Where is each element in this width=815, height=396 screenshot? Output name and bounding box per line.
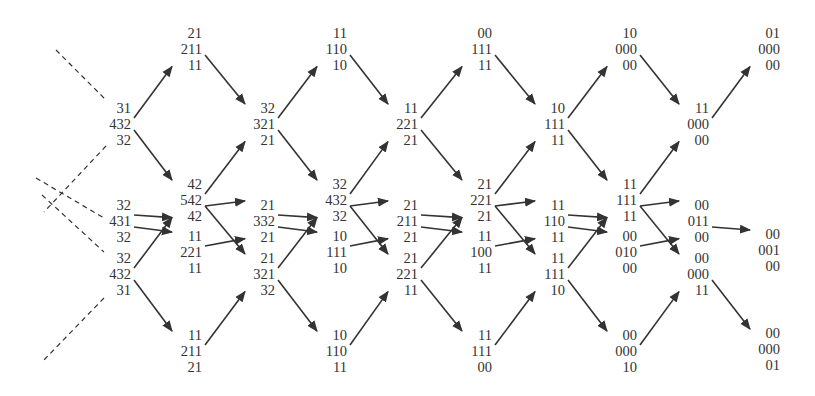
arrow-edges bbox=[134, 55, 750, 345]
transition-arrow bbox=[568, 67, 607, 118]
transition-arrow bbox=[278, 67, 317, 118]
node-line: 010 bbox=[615, 244, 637, 260]
node-line: 11 bbox=[180, 260, 202, 276]
node-line: 42 bbox=[180, 176, 202, 192]
node-line: 221 bbox=[470, 192, 492, 208]
transition-arrow bbox=[350, 206, 388, 254]
node-line: 110 bbox=[326, 41, 347, 57]
node-line: 31 bbox=[109, 282, 131, 298]
node-line: 000 bbox=[687, 266, 709, 282]
node-line: 211 bbox=[181, 343, 202, 359]
transition-arrow bbox=[640, 201, 679, 206]
node-line: 11 bbox=[544, 132, 565, 148]
node-line: 32 bbox=[325, 208, 347, 224]
node-line: 32 bbox=[109, 250, 131, 266]
transition-arrow bbox=[350, 142, 388, 194]
node-line: 00 bbox=[471, 359, 492, 375]
transition-arrow bbox=[568, 280, 607, 331]
node-line: 11 bbox=[544, 197, 565, 213]
node-line: 542 bbox=[180, 192, 202, 208]
transition-arrow bbox=[640, 292, 679, 345]
node-line: 332 bbox=[253, 213, 275, 229]
transition-arrow bbox=[350, 292, 388, 345]
state-node: 4254242 bbox=[180, 176, 202, 224]
node-line: 111 bbox=[471, 41, 492, 57]
transition-arrow bbox=[421, 227, 462, 232]
state-node: 2133221 bbox=[253, 197, 275, 245]
node-line: 011 bbox=[688, 213, 709, 229]
node-line: 00 bbox=[615, 57, 637, 73]
state-node: 2122111 bbox=[396, 250, 418, 298]
dashed-incoming-line bbox=[36, 178, 104, 218]
transition-arrow bbox=[205, 239, 245, 246]
transition-arrow bbox=[421, 67, 462, 118]
node-line: 000 bbox=[615, 343, 637, 359]
node-line: 10 bbox=[544, 282, 565, 298]
node-line: 321 bbox=[253, 266, 275, 282]
transition-arrow bbox=[495, 239, 535, 246]
node-line: 42 bbox=[180, 208, 202, 224]
node-line: 00 bbox=[758, 226, 780, 242]
transition-arrow bbox=[495, 292, 535, 345]
node-line: 01 bbox=[758, 357, 780, 373]
node-line: 10 bbox=[544, 100, 565, 116]
node-line: 111 bbox=[616, 192, 637, 208]
node-line: 111 bbox=[544, 266, 565, 282]
transition-arrow bbox=[421, 215, 462, 218]
node-line: 321 bbox=[253, 116, 275, 132]
transition-arrow bbox=[134, 218, 172, 268]
node-line: 11 bbox=[396, 100, 418, 116]
state-node: 3243232 bbox=[325, 176, 347, 224]
node-line: 00 bbox=[687, 250, 709, 266]
transition-arrow bbox=[640, 142, 679, 194]
transition-arrow bbox=[350, 239, 388, 246]
state-node: 1011110 bbox=[326, 228, 347, 276]
node-line: 111 bbox=[544, 116, 565, 132]
dashed-incoming-line bbox=[42, 298, 104, 362]
transition-arrow bbox=[712, 280, 750, 329]
node-line: 21 bbox=[253, 197, 275, 213]
node-line: 10 bbox=[615, 25, 637, 41]
node-line: 21 bbox=[181, 359, 202, 375]
transition-arrow bbox=[350, 201, 388, 206]
transition-arrow bbox=[712, 227, 750, 230]
state-node: 1111111 bbox=[616, 176, 637, 224]
transition-arrow bbox=[205, 201, 245, 206]
transition-arrow bbox=[495, 142, 535, 194]
dashed-incoming-line bbox=[42, 195, 104, 252]
transition-arrow bbox=[421, 280, 462, 331]
node-line: 221 bbox=[396, 116, 418, 132]
node-line: 21 bbox=[397, 197, 418, 213]
node-line: 11 bbox=[396, 282, 418, 298]
node-line: 110 bbox=[544, 213, 565, 229]
transition-arrow bbox=[568, 227, 607, 232]
transition-arrow bbox=[134, 215, 172, 218]
node-line: 31 bbox=[109, 100, 131, 116]
node-line: 11 bbox=[616, 176, 637, 192]
node-line: 11 bbox=[471, 57, 492, 73]
node-line: 100 bbox=[470, 244, 492, 260]
state-node: 2132132 bbox=[253, 250, 275, 298]
transition-arrow bbox=[495, 201, 535, 206]
node-line: 00 bbox=[758, 258, 780, 274]
node-line: 432 bbox=[109, 266, 131, 282]
state-node: 1122121 bbox=[396, 100, 418, 148]
node-line: 00 bbox=[688, 229, 709, 245]
node-line: 00 bbox=[687, 132, 709, 148]
node-line: 11 bbox=[544, 250, 565, 266]
state-node: 1011011 bbox=[326, 327, 347, 375]
state-node: 3143232 bbox=[109, 100, 131, 148]
state-node: 1000000 bbox=[615, 25, 637, 73]
transition-arrow bbox=[640, 206, 679, 254]
node-line: 11 bbox=[181, 57, 202, 73]
state-node: 0000100 bbox=[758, 226, 780, 274]
state-node: 2122121 bbox=[470, 176, 492, 224]
node-line: 21 bbox=[253, 132, 275, 148]
node-line: 21 bbox=[396, 132, 418, 148]
node-line: 32 bbox=[109, 197, 131, 213]
node-line: 11 bbox=[471, 327, 492, 343]
node-line: 10 bbox=[615, 359, 637, 375]
transition-arrow bbox=[205, 142, 245, 194]
dashed-incoming-line bbox=[56, 50, 106, 100]
node-line: 01 bbox=[758, 25, 780, 41]
